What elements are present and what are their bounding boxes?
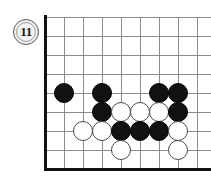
- black-stone[interactable]: [111, 121, 131, 141]
- board-left-edge: [44, 15, 47, 171]
- black-stone[interactable]: [149, 83, 169, 103]
- board-bottom-edge: [44, 168, 211, 171]
- white-stone[interactable]: [111, 140, 131, 160]
- black-stone[interactable]: [130, 121, 150, 141]
- grid-line-horizontal-3: [45, 74, 211, 75]
- white-stone[interactable]: [73, 121, 93, 141]
- black-stone[interactable]: [92, 102, 112, 122]
- move-number-label: 11: [20, 24, 31, 40]
- white-stone[interactable]: [92, 121, 112, 141]
- black-stone[interactable]: [149, 121, 169, 141]
- grid-line-horizontal-0: [45, 17, 211, 18]
- white-stone[interactable]: [168, 140, 188, 160]
- white-stone[interactable]: [111, 102, 131, 122]
- grid-line-horizontal-2: [45, 55, 211, 56]
- white-stone[interactable]: [168, 121, 188, 141]
- move-number-badge: 11: [13, 19, 39, 45]
- black-stone[interactable]: [54, 83, 74, 103]
- grid-line-horizontal-1: [45, 36, 211, 37]
- black-stone[interactable]: [168, 102, 188, 122]
- black-stone[interactable]: [92, 83, 112, 103]
- white-stone[interactable]: [130, 102, 150, 122]
- white-stone[interactable]: [149, 102, 169, 122]
- black-stone[interactable]: [168, 83, 188, 103]
- go-diagram: 11: [0, 0, 211, 182]
